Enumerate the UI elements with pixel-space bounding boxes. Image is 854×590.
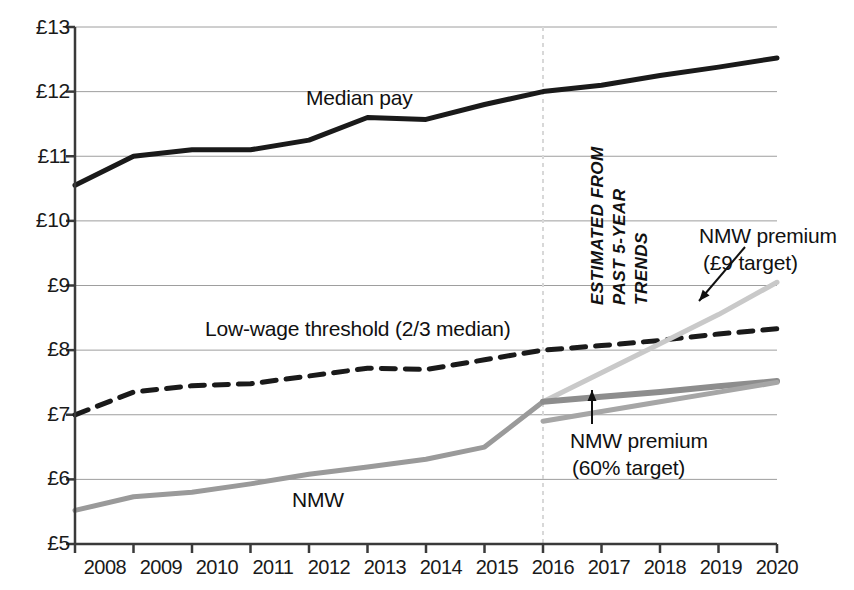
x-tick-label-2013: 2013 (355, 556, 415, 579)
x-tick-label-2017: 2017 (579, 556, 639, 579)
y-tick-label-13: £13 (2, 15, 70, 39)
series-line-nmw-projection-lower (543, 382, 777, 421)
series-label-low-wage-threshold: Low-wage threshold (2/3 median) (205, 317, 510, 341)
x-tick-label-2019: 2019 (691, 556, 751, 579)
series-line-median-pay (75, 58, 777, 185)
series-label-median-pay: Median pay (306, 86, 413, 110)
y-tick-label-6: £6 (2, 466, 70, 490)
y-tick-label-9: £9 (2, 273, 70, 297)
y-tick-label-8: £8 (2, 337, 70, 361)
series-label-nmw-premium-60-line1: NMW premium (570, 429, 708, 453)
series-label-nmw-premium-9-line1: NMW premium (699, 224, 837, 248)
chart-plot-area (0, 0, 854, 590)
x-tick-label-2014: 2014 (411, 556, 471, 579)
x-tick-label-2018: 2018 (635, 556, 695, 579)
y-tick-label-12: £12 (2, 79, 70, 103)
annotation-estimated-line2: PAST 5-YEAR (610, 188, 630, 305)
x-tick-label-2015: 2015 (467, 556, 527, 579)
y-tick-label-7: £7 (2, 402, 70, 426)
x-tick-label-2020: 2020 (747, 556, 807, 579)
x-tick-label-2010: 2010 (187, 556, 247, 579)
annotation-estimated-line3: TRENDS (632, 232, 652, 305)
annotation-estimated-line1: ESTIMATED FROM (588, 146, 608, 305)
x-tick-label-2009: 2009 (131, 556, 191, 579)
x-tick-label-2016: 2016 (523, 556, 583, 579)
x-tick-label-2012: 2012 (299, 556, 359, 579)
series-label-nmw-premium-9-line2: (£9 target) (703, 251, 798, 275)
x-tick-label-2011: 2011 (243, 556, 303, 579)
y-tick-label-11: £11 (2, 144, 70, 168)
y-tick-label-10: £10 (2, 208, 70, 232)
wage-projection-chart: £13 £12 £11 £10 £9 £8 £7 £6 £5 2008 2009… (0, 0, 854, 590)
gridlines-group (75, 27, 777, 479)
series-label-nmw-premium-60-line2: (60% target) (572, 456, 685, 480)
y-tick-label-5: £5 (2, 531, 70, 555)
series-label-nmw: NMW (292, 488, 344, 512)
x-tick-label-2008: 2008 (75, 556, 135, 579)
